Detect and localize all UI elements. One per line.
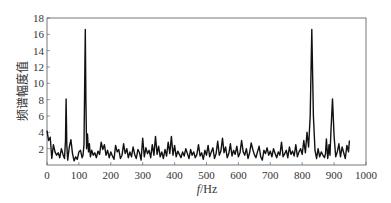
x-tick-label: 1000 (355, 169, 378, 181)
y-tick-label: 16 (33, 28, 45, 40)
x-axis-label: f/Hz (197, 182, 218, 196)
x-tick-label: 300 (134, 169, 151, 181)
y-tick-label: 12 (33, 61, 44, 73)
y-tick-label: 4 (39, 126, 45, 138)
spectrum-line (47, 29, 349, 161)
x-tick-label: 400 (166, 169, 183, 181)
x-tick-label: 900 (326, 169, 343, 181)
y-tick-label: 6 (39, 110, 45, 122)
x-tick-label: 200 (103, 169, 120, 181)
y-tick-label: 14 (33, 45, 45, 57)
x-tick-label: 800 (294, 169, 311, 181)
x-tick-label: 600 (230, 169, 247, 181)
x-tick-label: 100 (71, 169, 88, 181)
y-tick-label: 18 (33, 12, 45, 24)
y-tick-label: 10 (33, 77, 45, 89)
x-tick-label: 0 (44, 169, 50, 181)
y-axis-label: 频谱幅度值 (15, 61, 30, 121)
spectrum-chart: 24681012141618 0100200300400500600700800… (0, 0, 391, 203)
y-tick-label: 2 (39, 143, 45, 155)
y-tick-label: 8 (39, 94, 45, 106)
x-tick-label: 500 (198, 169, 215, 181)
x-tick-label: 700 (262, 169, 279, 181)
plot-frame (47, 18, 366, 165)
